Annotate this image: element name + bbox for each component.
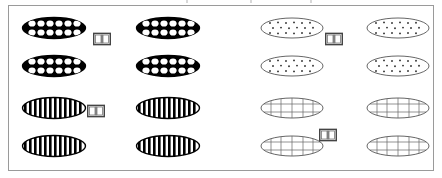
ellipse-grid bbox=[365, 134, 431, 158]
scan-artifact bbox=[0, 0, 442, 4]
ellipse-white-dots bbox=[259, 16, 325, 40]
ellipse-vertical-stripes bbox=[135, 134, 201, 158]
open-book-icon bbox=[325, 32, 343, 46]
ellipse-grid bbox=[365, 96, 431, 120]
figure-frame bbox=[8, 5, 434, 171]
ellipse-black-dots bbox=[135, 16, 201, 40]
ellipse-vertical-stripes bbox=[21, 96, 87, 120]
ellipse-black-dots bbox=[21, 54, 87, 78]
open-book-icon bbox=[87, 104, 105, 118]
group-bottom-left bbox=[21, 94, 201, 168]
open-book-icon bbox=[93, 32, 111, 46]
group-top-left bbox=[21, 14, 201, 88]
ellipse-black-dots bbox=[21, 16, 87, 40]
ellipse-white-dots bbox=[365, 54, 431, 78]
ellipse-grid bbox=[259, 134, 325, 158]
open-book-icon bbox=[319, 128, 337, 142]
ellipse-vertical-stripes bbox=[135, 96, 201, 120]
ellipse-black-dots bbox=[135, 54, 201, 78]
group-top-right bbox=[255, 14, 435, 88]
ellipse-vertical-stripes bbox=[21, 134, 87, 158]
figure-root bbox=[0, 0, 442, 178]
ellipse-white-dots bbox=[259, 54, 325, 78]
group-bottom-right bbox=[255, 94, 435, 168]
ellipse-grid bbox=[259, 96, 325, 120]
ellipse-white-dots bbox=[365, 16, 431, 40]
